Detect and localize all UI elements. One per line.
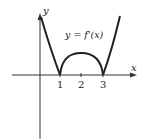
- x-axis-label: x: [131, 62, 137, 73]
- graph: y x 1 2 3 y = f'(x): [0, 0, 141, 139]
- tick-label-1: 1: [57, 79, 63, 90]
- x-axis-arrow-icon: [130, 73, 137, 78]
- curve-arch: [60, 53, 103, 75]
- curve-left-branch: [41, 17, 60, 75]
- tick-label-2: 2: [78, 79, 84, 90]
- tick-label-3: 3: [100, 79, 106, 90]
- y-axis-label: y: [42, 5, 49, 16]
- curve-label: y = f'(x): [64, 29, 104, 40]
- curve-right-branch: [103, 16, 120, 75]
